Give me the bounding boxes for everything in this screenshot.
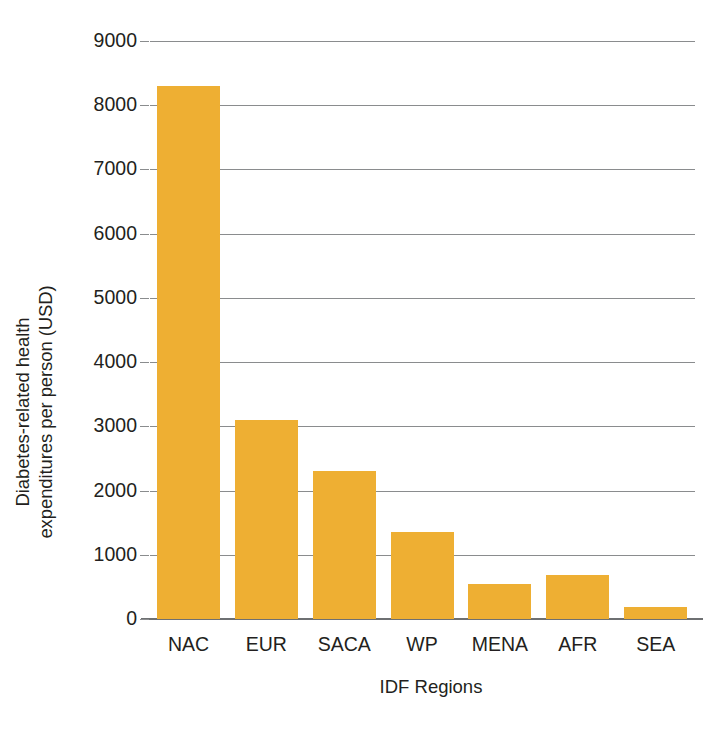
bar [391, 532, 454, 619]
gridline [150, 234, 695, 235]
bar [468, 584, 531, 619]
y-axis-title: Diabetes-related health expenditures per… [11, 202, 57, 622]
y-axis-tick-mark [140, 41, 149, 42]
y-axis-tick-label: 4000 [57, 352, 137, 372]
gridline [150, 426, 695, 427]
y-axis-tick-label: 0 [57, 609, 137, 629]
x-axis-tick-label: SEA [611, 632, 701, 656]
bar [624, 607, 687, 619]
x-axis-tick-label: SACA [299, 632, 389, 656]
gridline [150, 105, 695, 106]
y-axis-tick-mark [140, 491, 149, 492]
bar [546, 575, 609, 619]
y-axis-tick-mark [140, 426, 149, 427]
y-axis-tick-label: 5000 [57, 288, 137, 308]
gridline [150, 41, 695, 42]
y-axis-tick-label: 3000 [57, 416, 137, 436]
y-axis-tick-label: 2000 [57, 481, 137, 501]
y-axis-tick-mark [140, 619, 149, 620]
x-axis-title: IDF Regions [150, 676, 712, 698]
x-axis-tick-labels: NACEURSACAWPMENAAFRSEA [150, 632, 712, 660]
gridline [150, 169, 695, 170]
y-axis-tick-mark [140, 105, 149, 106]
y-axis-tick-mark [140, 169, 149, 170]
y-axis-tick-mark [140, 362, 149, 363]
y-axis-tick-label: 6000 [57, 224, 137, 244]
bar [157, 86, 220, 619]
y-axis-tick-mark [140, 555, 149, 556]
gridline [150, 491, 695, 492]
y-axis-tick-mark [140, 234, 149, 235]
bar [313, 471, 376, 619]
gridline [150, 362, 695, 363]
bar [235, 420, 298, 619]
y-axis-tick-label: 1000 [57, 545, 137, 565]
y-axis-tick-labels: 0100020003000400050006000700080009000 [52, 41, 137, 619]
x-axis-tick-label: WP [377, 632, 467, 656]
x-axis-tick-label: AFR [533, 632, 623, 656]
plot-area [150, 41, 695, 619]
bar-chart-figure: Diabetes-related health expenditures per… [0, 0, 721, 733]
x-axis-tick-label: NAC [144, 632, 234, 656]
y-axis-tick-label: 7000 [57, 159, 137, 179]
y-axis-tick-label: 8000 [57, 95, 137, 115]
x-axis-tick-label: MENA [455, 632, 545, 656]
y-axis-tick-mark [140, 298, 149, 299]
y-axis-title-line-1: Diabetes-related health [11, 318, 34, 507]
x-axis-tick-label: EUR [221, 632, 311, 656]
gridline [150, 298, 695, 299]
y-axis-tick-label: 9000 [57, 31, 137, 51]
